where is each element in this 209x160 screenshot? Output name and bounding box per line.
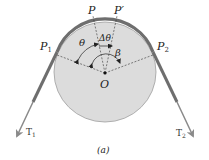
center-point <box>103 71 106 74</box>
belt-left-segment <box>33 52 57 102</box>
label-p: P <box>87 4 96 17</box>
belt-friction-diagram: P P′ P1 P2 θ Δθ β O T1 T2 (a) <box>0 0 209 160</box>
label-p2: P2 <box>156 40 169 54</box>
label-theta: θ <box>79 37 85 48</box>
label-t1: T1 <box>26 127 36 138</box>
label-p-prime: P′ <box>113 4 124 17</box>
label-origin: O <box>100 78 109 91</box>
belt-right-segment <box>153 52 177 102</box>
label-p1: P1 <box>39 40 52 54</box>
label-beta: β <box>114 47 121 58</box>
figure-caption: (a) <box>97 145 110 155</box>
label-t2: T2 <box>176 128 186 139</box>
label-delta-theta: Δθ <box>98 33 111 43</box>
